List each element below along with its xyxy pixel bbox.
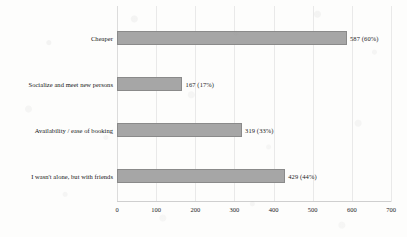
x-tick-label: 100: [151, 206, 161, 213]
category-label-socialize: Socialize and meet new persons: [1, 81, 113, 88]
x-tick-label: 500: [308, 206, 318, 213]
bar-socialize[interactable]: [117, 77, 182, 91]
plot-area: 587 (60%) 167 (17%) 319 (33%) 429 (44%): [117, 6, 391, 202]
bar-with-friends[interactable]: [117, 169, 285, 183]
bar-row: 587 (60%): [117, 31, 391, 45]
bar-value-label: 587 (60%): [350, 35, 379, 42]
x-tick-label: 600: [347, 206, 357, 213]
category-label-with-friends: I wasn't alone, but with friends: [1, 173, 113, 180]
category-label-wrap: I wasn't alone, but with friends: [0, 169, 113, 183]
bar-value-label: 429 (44%): [288, 173, 317, 180]
category-label-wrap: Socialize and meet new persons: [0, 77, 113, 91]
bar-value-label: 319 (33%): [245, 127, 274, 134]
category-label-wrap: Cheaper: [0, 31, 113, 45]
x-tick-label: 300: [230, 206, 240, 213]
x-tick-label: 0: [115, 206, 118, 213]
category-label-cheaper: Cheaper: [1, 35, 113, 42]
bar-row: 167 (17%): [117, 77, 391, 91]
bar-chart: 587 (60%) 167 (17%) 319 (33%) 429 (44%) …: [0, 0, 407, 237]
bar-row: 319 (33%): [117, 123, 391, 137]
bar-availability[interactable]: [117, 123, 242, 137]
bar-row: 429 (44%): [117, 169, 391, 183]
x-tick-label: 200: [190, 206, 200, 213]
x-tick-label: 400: [269, 206, 279, 213]
category-label-wrap: Availability / ease of booking: [0, 123, 113, 137]
gridline-700: [391, 6, 392, 202]
x-tick-label: 700: [386, 206, 396, 213]
bar-value-label: 167 (17%): [186, 81, 215, 88]
x-axis-line: [117, 201, 391, 202]
bar-cheaper[interactable]: [117, 31, 347, 45]
category-label-availability: Availability / ease of booking: [1, 127, 113, 134]
